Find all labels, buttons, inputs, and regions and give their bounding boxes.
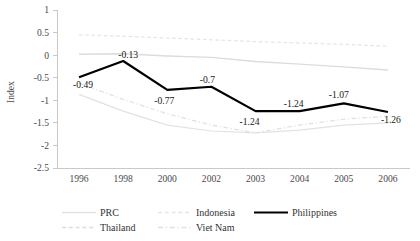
line-chart-figure: 10.50-0.5-1-1.5-2-2.5 199619982000200220… (0, 0, 420, 241)
y-tick-label: 1 (44, 4, 49, 15)
y-axis-title: Index (5, 81, 16, 103)
data-point-label: -1.07 (329, 89, 349, 100)
legend-label-indonesia: Indonesia (196, 207, 235, 218)
legend-label-prc: PRC (100, 207, 119, 218)
y-axis-tick-labels: 10.50-0.5-1-1.5-2-2.5 (34, 4, 49, 173)
x-tick-label: 2005 (334, 173, 353, 184)
x-tick-label: 2006 (378, 173, 397, 184)
y-tick-label: -2 (41, 140, 49, 151)
data-point-label: -1.26 (381, 114, 401, 125)
legend-label-philippines: Philippines (292, 207, 337, 218)
y-axis-title-text: Index (5, 81, 16, 103)
data-point-label: -1.24 (284, 98, 304, 109)
data-point-label: -0.7 (200, 74, 215, 85)
y-tick-label: 0 (44, 50, 49, 61)
x-tick-label: 2002 (202, 173, 221, 184)
chart-legend: PRCThailandIndonesiaViet NamPhilippines (62, 207, 337, 233)
axis-layer (53, 10, 410, 168)
data-point-label: -0.49 (73, 79, 93, 90)
y-tick-label: -1.5 (34, 117, 49, 128)
x-tick-label: 1998 (114, 173, 133, 184)
x-axis-tick-labels: 19961998200020022003200420052006 (69, 173, 397, 184)
x-tick-label: 1996 (69, 173, 88, 184)
y-tick-label: 0.5 (37, 27, 49, 38)
data-point-label: -1.24 (240, 116, 260, 127)
x-tick-label: 2004 (290, 173, 309, 184)
data-point-label: -0.13 (118, 49, 138, 60)
chart-container: 10.50-0.5-1-1.5-2-2.5 199619982000200220… (0, 0, 420, 241)
legend-label-thailand: Thailand (100, 222, 136, 233)
y-tick-label: -1 (41, 95, 49, 106)
series-line-philippines (79, 61, 388, 112)
x-tick-label: 2000 (158, 173, 177, 184)
data-point-label: -0.77 (154, 95, 174, 106)
legend-label-viet-nam: Viet Nam (196, 222, 235, 233)
x-tick-label: 2003 (246, 173, 265, 184)
y-tick-label: -0.5 (34, 72, 49, 83)
y-tick-label: -2.5 (34, 162, 49, 173)
series-line-indonesia (79, 35, 388, 46)
